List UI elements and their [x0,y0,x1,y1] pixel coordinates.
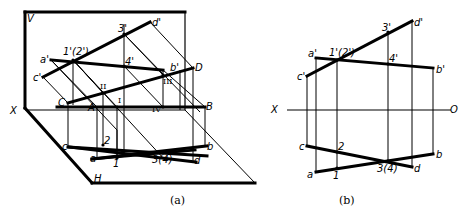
b-label-O: O [450,104,458,115]
label-II: II [100,82,106,91]
b-label-a-prime: a' [308,48,317,59]
figure-b: X O a' c' 1'(2') 3' 4' d' b' c a 2 1 3(4… [270,17,458,207]
point-12-prime [71,58,74,61]
point-II [101,91,104,94]
b-label-d-prime: d' [414,17,423,28]
label-c-prime: c' [33,72,41,83]
figure-a: V X H a' c' 1'(2') 3' 4' d' b' A B C D I… [9,12,255,207]
b-label-3-prime: 3' [382,22,391,33]
label-V: V [27,13,35,24]
b-label-4-prime: 4' [389,53,398,64]
projector-b [163,70,205,107]
label-34: 3(4) [152,154,173,165]
label-2: 2 [104,135,110,146]
b-label-X: X [270,104,279,115]
label-d-prime: d' [152,17,161,28]
b-point-12-prime [335,58,338,61]
b-line-cd-prime [307,21,412,76]
label-c: c [62,141,68,152]
label-a: a [90,153,96,164]
projection-diagram: V X H a' c' 1'(2') 3' 4' d' b' A B C D I… [0,0,463,218]
b-label-b: b [436,149,442,160]
label-IV: IV [152,105,161,114]
h-plane-left-edge [25,108,92,183]
label-d: d [194,155,201,166]
label-I: I [118,96,121,105]
label-X-a: X [9,105,18,116]
point-I [115,105,118,108]
label-3-prime: 3' [118,23,127,34]
label-b-prime: b' [170,62,179,73]
label-1: 1 [113,158,119,169]
b-label-b-prime: b' [436,64,445,75]
diag-3-h [124,34,200,112]
caption-b: (b) [339,194,355,207]
label-H: H [94,173,102,184]
b-label-c-prime: c' [297,71,305,82]
b-label-1: 1 [333,170,339,181]
label-C: C [58,97,65,108]
b-label-a: a [307,169,313,180]
b-label-2: 2 [338,141,344,152]
label-III: III [163,77,172,86]
label-D: D [195,62,203,73]
label-a-prime: a' [40,54,49,65]
b-label-12-prime: 1'(2') [329,47,355,58]
b-label-d: d [414,163,421,174]
caption-a: (a) [170,194,185,207]
b-label-34: 3(4) [377,163,398,174]
b-label-c: c [299,141,305,152]
label-B: B [206,101,213,112]
label-4-prime: 4' [125,56,134,67]
label-A: A [87,102,95,113]
label-b: b [207,141,213,152]
label-12-prime: 1'(2') [63,46,89,57]
point-IV [161,105,164,108]
